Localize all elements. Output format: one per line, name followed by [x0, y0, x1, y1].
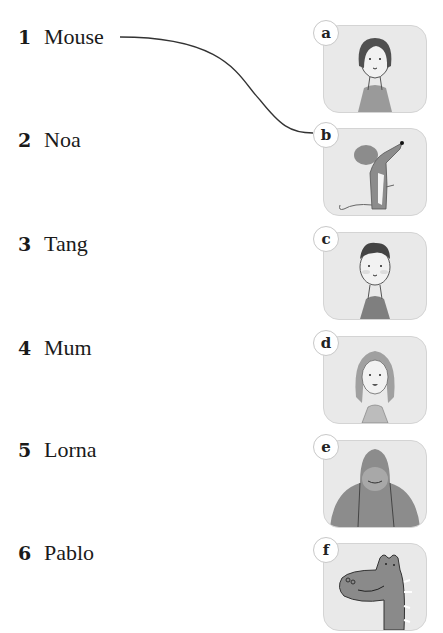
picture-letter-d: d — [313, 330, 339, 356]
dinosaur-illustration — [324, 544, 426, 630]
item-number: 6 — [18, 540, 44, 566]
picture-letter-e: e — [313, 434, 339, 460]
picture-letter-f: f — [313, 537, 339, 563]
girl-illustration — [324, 26, 426, 112]
picture-card-a[interactable] — [323, 25, 427, 113]
item-number: 1 — [18, 24, 44, 50]
item-number: 3 — [18, 231, 44, 257]
boy-illustration — [324, 233, 426, 319]
item-name: Mouse — [44, 24, 104, 50]
picture-card-c[interactable] — [323, 232, 427, 320]
name-item-3: 3 Tang — [18, 231, 88, 257]
name-item-4: 4 Mum — [18, 335, 92, 361]
item-number: 4 — [18, 335, 44, 361]
item-name: Noa — [44, 127, 81, 153]
name-item-2: 2 Noa — [18, 127, 81, 153]
picture-card-e[interactable] — [323, 440, 427, 528]
name-item-6: 6 Pablo — [18, 540, 94, 566]
item-name: Lorna — [44, 437, 97, 463]
orangutan-illustration — [324, 441, 426, 527]
item-name: Tang — [44, 231, 88, 257]
item-name: Mum — [44, 335, 92, 361]
picture-letter-c: c — [313, 226, 339, 252]
picture-letter-b: b — [313, 122, 339, 148]
picture-card-f[interactable] — [323, 543, 427, 631]
item-number: 2 — [18, 127, 44, 153]
name-item-5: 5 Lorna — [18, 437, 97, 463]
woman-illustration — [324, 337, 426, 423]
picture-letter-a: a — [313, 20, 339, 46]
item-name: Pablo — [44, 540, 94, 566]
mouse-illustration — [324, 129, 426, 215]
item-number: 5 — [18, 437, 44, 463]
name-item-1: 1 Mouse — [18, 24, 104, 50]
picture-card-b[interactable] — [323, 128, 427, 216]
picture-card-d[interactable] — [323, 336, 427, 424]
